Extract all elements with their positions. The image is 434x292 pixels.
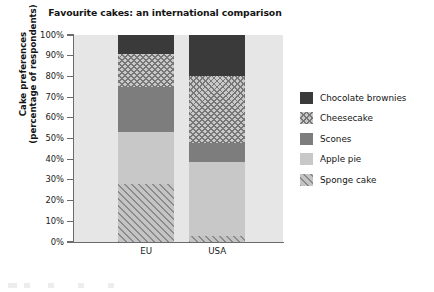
x-tick-label-usa: USA (177, 246, 257, 256)
bar-segment-eu-cheesecake[interactable] (118, 54, 174, 87)
legend-swatch-icon (300, 112, 313, 124)
y-tick-label-70: 70% (18, 92, 64, 102)
y-tick-80 (67, 76, 74, 77)
bar-segment-usa-apple-pie[interactable] (189, 162, 245, 235)
y-tick-label-50: 50% (18, 133, 64, 143)
bar-segment-usa-chocolate-brownies[interactable] (189, 35, 245, 76)
bar-usa[interactable] (189, 35, 245, 242)
y-tick-label-20: 20% (18, 195, 64, 205)
bar-segment-eu-sponge-cake[interactable] (118, 184, 174, 242)
y-tick-40 (67, 159, 74, 160)
chart-container: Favourite cakes: an international compar… (0, 0, 434, 292)
bar-segment-eu-scones[interactable] (118, 87, 174, 133)
y-tick-label-90: 90% (18, 50, 64, 60)
y-tick-label-0: 0% (18, 237, 64, 247)
legend-label: Cheesecake (320, 113, 373, 123)
legend-swatch-icon (300, 153, 313, 165)
bar-segment-eu-apple-pie[interactable] (118, 132, 174, 184)
y-tick-label-10: 10% (18, 216, 64, 226)
bar-segment-usa-cheesecake[interactable] (189, 76, 245, 142)
y-tick-label-100: 100% (18, 30, 64, 40)
bar-segment-eu-chocolate-brownies[interactable] (118, 35, 174, 54)
legend-item-sponge-cake[interactable]: Sponge cake (300, 174, 406, 186)
x-tick-label-eu: EU (106, 246, 186, 256)
y-tick-50 (67, 138, 74, 139)
legend-item-apple-pie[interactable]: Apple pie (300, 153, 406, 165)
y-tick-label-80: 80% (18, 71, 64, 81)
legend-item-scones[interactable]: Scones (300, 133, 406, 145)
legend-label: Chocolate brownies (320, 93, 406, 103)
legend-swatch-icon (300, 133, 313, 145)
plot-area (74, 35, 283, 242)
legend-swatch-icon (300, 92, 313, 104)
y-tick-10 (67, 221, 74, 222)
y-tick-30 (67, 179, 74, 180)
page-scan-artifact (8, 283, 128, 288)
legend-label: Apple pie (320, 154, 361, 164)
y-tick-60 (67, 117, 74, 118)
y-tick-0 (67, 241, 74, 242)
y-tick-label-60: 60% (18, 112, 64, 122)
y-tick-90 (67, 55, 74, 56)
chart-title: Favourite cakes: an international compar… (0, 7, 330, 18)
chart-legend: Chocolate browniesCheesecakeSconesApple … (300, 92, 406, 186)
y-tick-20 (67, 200, 74, 201)
y-tick-100 (67, 34, 74, 35)
x-axis-line (73, 242, 284, 243)
legend-label: Scones (320, 134, 351, 144)
legend-item-chocolate-brownies[interactable]: Chocolate brownies (300, 92, 406, 104)
bar-segment-usa-scones[interactable] (189, 143, 245, 163)
bar-segment-usa-sponge-cake[interactable] (189, 236, 245, 242)
bar-eu[interactable] (118, 35, 174, 242)
legend-label: Sponge cake (320, 175, 376, 185)
y-tick-label-30: 30% (18, 174, 64, 184)
y-tick-label-40: 40% (18, 154, 64, 164)
y-tick-70 (67, 97, 74, 98)
legend-item-cheesecake[interactable]: Cheesecake (300, 112, 406, 124)
legend-swatch-icon (300, 174, 313, 186)
